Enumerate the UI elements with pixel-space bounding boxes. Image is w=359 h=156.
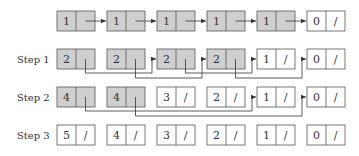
rows-layer: 111110/Step 122221/0/Step 2443/2/1/0/Ste… <box>17 11 345 145</box>
null-pointer-symbol: / <box>234 129 238 142</box>
node-value: 0 <box>313 53 320 66</box>
node-value: 0 <box>313 91 320 104</box>
list-node: 2/ <box>207 87 245 107</box>
node-value: 1 <box>163 15 170 28</box>
node-value: 1 <box>63 15 70 28</box>
list-node: 3/ <box>157 87 195 107</box>
list-node: 2 <box>107 49 145 69</box>
null-pointer-symbol: / <box>334 53 338 66</box>
row-3: Step 35/4/3/2/1/0/ <box>17 125 345 145</box>
node-value: 4 <box>63 91 70 104</box>
list-node: 1/ <box>257 125 295 145</box>
list-node: 4 <box>57 87 95 107</box>
node-value: 1 <box>113 15 120 28</box>
list-node: 2 <box>207 49 245 69</box>
list-node: 3/ <box>157 125 195 145</box>
list-node: 4/ <box>107 125 145 145</box>
row-2: Step 2443/2/1/0/ <box>17 87 345 116</box>
list-node: 0/ <box>307 11 345 31</box>
list-node: 4 <box>107 87 145 107</box>
node-value: 4 <box>113 129 120 142</box>
null-pointer-symbol: / <box>334 91 338 104</box>
node-value: 1 <box>263 53 270 66</box>
null-pointer-symbol: / <box>134 129 138 142</box>
null-pointer-symbol: / <box>234 91 238 104</box>
node-value: 3 <box>163 129 170 142</box>
node-value: 2 <box>213 91 220 104</box>
node-value: 1 <box>263 91 270 104</box>
node-value: 1 <box>213 15 220 28</box>
list-node: 1/ <box>257 49 295 69</box>
step-label: Step 3 <box>17 130 50 141</box>
node-value: 2 <box>213 129 220 142</box>
null-pointer-symbol: / <box>184 129 188 142</box>
list-node: 1/ <box>257 87 295 107</box>
list-node: 0/ <box>307 49 345 69</box>
step-label: Step 2 <box>17 92 50 103</box>
node-value: 3 <box>163 91 170 104</box>
list-ranking-diagram: 111110/Step 122221/0/Step 2443/2/1/0/Ste… <box>0 0 359 156</box>
node-value: 2 <box>63 53 70 66</box>
null-pointer-symbol: / <box>284 53 288 66</box>
list-node: 2/ <box>207 125 245 145</box>
node-value: 0 <box>313 15 320 28</box>
list-node: 2 <box>157 49 195 69</box>
step-label: Step 1 <box>17 54 50 65</box>
list-node: 5/ <box>57 125 95 145</box>
row-1: Step 122221/0/ <box>17 49 345 78</box>
null-pointer-symbol: / <box>334 129 338 142</box>
node-value: 2 <box>213 53 220 66</box>
node-value: 0 <box>313 129 320 142</box>
node-value: 2 <box>163 53 170 66</box>
node-value: 2 <box>113 53 120 66</box>
list-node: 2 <box>57 49 95 69</box>
node-value: 1 <box>263 129 270 142</box>
node-value: 4 <box>113 91 120 104</box>
null-pointer-symbol: / <box>84 129 88 142</box>
node-value: 5 <box>63 129 70 142</box>
node-value: 1 <box>263 15 270 28</box>
null-pointer-symbol: / <box>184 91 188 104</box>
list-node: 0/ <box>307 125 345 145</box>
null-pointer-symbol: / <box>284 91 288 104</box>
list-node: 0/ <box>307 87 345 107</box>
null-pointer-symbol: / <box>284 129 288 142</box>
null-pointer-symbol: / <box>334 15 338 28</box>
row-0: 111110/ <box>57 11 345 31</box>
